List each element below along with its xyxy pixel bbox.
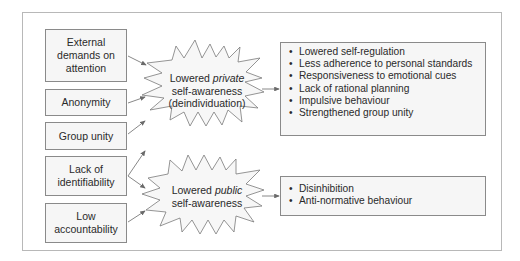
- outcomes-private-list: Lowered self-regulation Less adherence t…: [289, 46, 479, 119]
- state-public-label: Lowered public self-awareness: [160, 184, 254, 209]
- outcomes-public-list: Disinhibition Anti-normative behaviour: [289, 183, 479, 207]
- outcome-item: Lack of rational planning: [289, 83, 479, 95]
- outcome-item: Less adherence to personal standards: [289, 58, 479, 70]
- state-private-line2: self-awareness: [172, 85, 243, 97]
- cause-group-unity: Group unity: [45, 122, 127, 150]
- outcomes-private-box: Lowered self-regulation Less adherence t…: [280, 42, 486, 136]
- state-public-line2: self-awareness: [172, 197, 243, 209]
- state-private-line3: (deindividuation): [168, 97, 245, 109]
- outcome-item: Strengthened group unity: [289, 107, 479, 119]
- outcome-item: Responsiveness to emotional cues: [289, 70, 479, 82]
- outcomes-public-box: Disinhibition Anti-normative behaviour: [280, 176, 486, 216]
- cause-external-demands: External demands on attention: [45, 29, 127, 82]
- outcome-item: Impulsive behaviour: [289, 95, 479, 107]
- state-public-emph: public: [215, 184, 242, 196]
- cause-lack-of-identifiability: Lack of identifiability: [45, 156, 127, 196]
- outcome-item: Lowered self-regulation: [289, 46, 479, 58]
- cause-low-accountability: Low accountability: [45, 203, 127, 243]
- state-private-label: Lowered private self-awareness (deindivi…: [162, 72, 252, 110]
- outcome-item: Disinhibition: [289, 183, 479, 195]
- cause-anonymity: Anonymity: [45, 89, 127, 116]
- state-public-prefix: Lowered: [172, 184, 215, 196]
- outcome-item: Anti-normative behaviour: [289, 195, 479, 207]
- state-private-emph: private: [213, 72, 245, 84]
- state-private-prefix: Lowered: [170, 72, 213, 84]
